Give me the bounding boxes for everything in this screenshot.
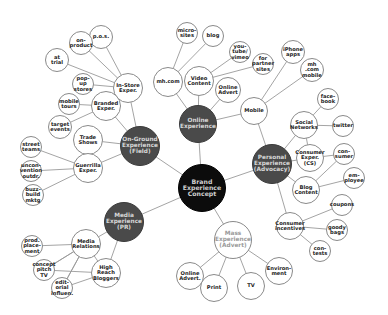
node-label: Guerrilla Exper.: [75, 163, 100, 173]
node-twitter: twitter: [332, 115, 354, 137]
node-contests: con- tests: [309, 240, 331, 262]
node-label: Media Relations: [72, 239, 99, 249]
node-goodybags: goody bags: [326, 219, 348, 241]
node-blog: blog: [202, 25, 224, 47]
node-label: uncon- vention outdr.: [20, 163, 42, 179]
node-popup: pop-up stores: [72, 73, 94, 95]
node-prodplacement: prod. place- ment: [21, 235, 43, 257]
node-label: Personal Experience (Advocacy): [254, 155, 290, 172]
node-label: coupons: [330, 202, 354, 207]
node-online: Online Experience: [179, 105, 217, 143]
node-label: em- ployee: [344, 173, 363, 183]
node-label: Mass Experience (Advert): [215, 231, 251, 248]
node-tradeshows: Trade Shows: [73, 125, 103, 155]
node-onproduct: on- product: [69, 31, 93, 55]
node-branded: Branded Exper.: [91, 91, 121, 121]
node-conceptpitch: concept pitch TV: [33, 259, 55, 281]
node-label: iPhone apps: [283, 47, 303, 57]
node-label: twitter: [333, 123, 353, 128]
node-mhcom: mh.com: [153, 67, 183, 97]
node-label: High Reach Bloggers: [93, 265, 119, 281]
node-label: concept pitch TV: [32, 262, 55, 278]
node-label: Social Networks: [290, 120, 318, 130]
node-label: target events: [50, 122, 70, 132]
node-facebook: face- book: [317, 88, 339, 110]
node-unconvention: uncon- vention outdr.: [20, 160, 42, 182]
node-label: mh .com mobile: [302, 62, 322, 78]
node-consumerexp: Consumer Exper. (CS): [296, 144, 324, 172]
node-mediarel: Media Relations: [71, 229, 101, 259]
node-streetteams: street teams: [20, 136, 42, 158]
node-label: Brand Experience Concept: [183, 179, 221, 198]
node-tv: TV: [237, 272, 265, 300]
node-youtube: you- tube/ vimeo: [229, 41, 251, 63]
node-label: at trial: [51, 55, 63, 65]
node-label: buzz- build mktg: [25, 187, 41, 203]
node-partnersites: for partner sites: [252, 53, 274, 75]
node-label: Online Advert.: [179, 271, 201, 281]
node-label: pop-up stores: [73, 76, 93, 92]
node-brand: Brand Experience Concept: [178, 164, 226, 212]
node-mhmobile: mh .com mobile: [300, 58, 324, 82]
node-label: Media Experience (PR): [106, 213, 142, 230]
node-highreach: High Reach Bloggers: [91, 258, 121, 288]
node-blogcontent: Blog Content: [292, 176, 320, 204]
node-label: you- tube/ vimeo: [231, 44, 249, 60]
node-onlineadvert: Online Advert: [215, 77, 241, 103]
node-label: street teams: [22, 142, 40, 152]
node-label: goody bags: [328, 225, 346, 235]
node-label: mobile tours: [59, 99, 79, 109]
node-personal: Personal Experience (Advocacy): [252, 144, 292, 184]
node-label: micro- sites: [178, 28, 197, 38]
node-onground: On-Ground Experience (Field): [120, 126, 160, 166]
node-media: Media Experience (PR): [104, 202, 144, 242]
node-label: Print: [207, 285, 221, 290]
node-label: Video Content: [187, 76, 210, 86]
node-social: Social Networks: [290, 111, 318, 139]
node-microsites: micro- sites: [176, 22, 198, 44]
node-label: In-Store Exper.: [116, 83, 140, 93]
node-label: Consumer Exper. (CS): [295, 150, 324, 166]
node-mobiletours: mobile tours: [58, 93, 80, 115]
node-label: Online Experience: [180, 118, 216, 130]
node-label: face- book: [321, 94, 336, 104]
node-guerrilla: Guerrilla Exper.: [73, 153, 103, 183]
node-label: on- product: [70, 38, 93, 48]
node-label: mh.com: [156, 79, 179, 84]
node-label: On-Ground Experience (Field): [122, 137, 158, 154]
node-label: TV: [247, 283, 255, 288]
node-print: Print: [200, 274, 228, 302]
node-label: con- tests: [313, 246, 328, 256]
node-label: Trade Shows: [79, 135, 98, 145]
node-environment: Environ- ment: [265, 257, 293, 285]
node-label: blog: [207, 33, 220, 38]
node-incentives: Consumer incentives: [276, 212, 304, 240]
node-label: edit- orial influen.: [51, 280, 73, 296]
node-label: Consumer incentives: [275, 221, 305, 231]
node-label: Blog Content: [294, 185, 317, 195]
node-label: prod. place- ment: [23, 238, 41, 254]
node-label: Branded Exper.: [94, 101, 119, 111]
node-editorial: edit- orial influen.: [51, 277, 73, 299]
node-label: con- sumer: [335, 149, 353, 159]
node-buzz: buzz- build mktg: [22, 184, 44, 206]
node-employee: em- ployee: [343, 167, 365, 189]
node-mass: Mass Experience (Advert): [214, 221, 252, 259]
node-iphone: iPhone apps: [281, 40, 305, 64]
node-video: Video Content: [184, 66, 214, 96]
node-label: Environ- ment: [267, 266, 291, 276]
node-label: p.o.s.: [93, 34, 109, 39]
node-targetevents: target events: [48, 115, 72, 139]
node-consumer: con- sumer: [333, 143, 355, 165]
node-attrial: at trial: [45, 48, 69, 72]
node-label: Mobile: [244, 108, 264, 113]
node-coupons: coupons: [331, 194, 353, 216]
node-label: Online Advert: [218, 85, 238, 95]
node-label: for partner sites: [252, 56, 274, 72]
node-mobile: Mobile: [240, 97, 268, 125]
